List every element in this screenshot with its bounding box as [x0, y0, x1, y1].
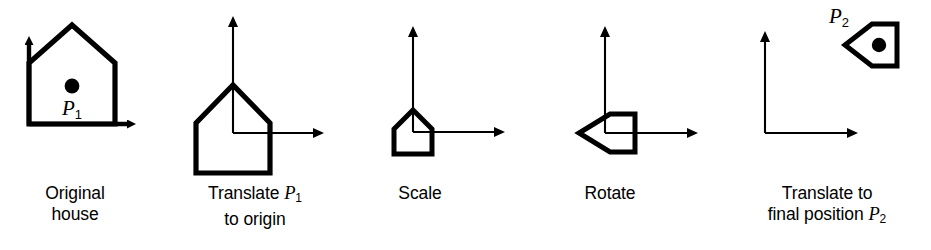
- caption-translate-origin-text: Translate: [208, 183, 284, 203]
- caption-translate-final-var: P: [868, 204, 879, 224]
- caption-original-house-line2: house: [0, 204, 150, 225]
- point-label-p2: P2: [829, 4, 849, 30]
- caption-scale: Scale: [350, 183, 490, 204]
- panel-rotate: [579, 36, 688, 152]
- caption-translate-origin-line2: to origin: [170, 209, 340, 230]
- caption-translate-final: Translate to final position P2: [723, 183, 931, 230]
- caption-translate-origin: Translate P1 to origin: [170, 183, 340, 230]
- caption-translate-origin-var: P: [284, 183, 295, 203]
- point-label-p1: P1: [62, 96, 82, 122]
- axes-scale: [413, 36, 495, 132]
- house-shape-final: [845, 24, 897, 66]
- caption-rotate-line1: Rotate: [540, 183, 680, 204]
- point-label-p2-subscript: 2: [842, 15, 849, 30]
- panel-translate-final: [765, 24, 897, 133]
- figure-canvas: P1 P2 Original house Translate P1 to ori…: [0, 0, 931, 250]
- caption-original-house-line1: Original: [0, 183, 150, 204]
- caption-translate-final-sub: 2: [880, 212, 887, 226]
- caption-translate-final-text: final position: [768, 204, 869, 224]
- panel-scale: [394, 36, 495, 154]
- caption-scale-line1: Scale: [350, 183, 490, 204]
- panel-translate-origin: [196, 26, 314, 173]
- axes-translate-origin: [233, 26, 314, 133]
- caption-translate-origin-sub: 1: [295, 191, 302, 205]
- axes-rotate: [605, 36, 688, 133]
- caption-original-house: Original house: [0, 183, 150, 225]
- point-marker-p2: [872, 38, 886, 52]
- caption-rotate: Rotate: [540, 183, 680, 204]
- caption-translate-final-line2: final position P2: [723, 204, 931, 230]
- axes-translate-final: [765, 41, 848, 133]
- caption-translate-final-line1: Translate to: [723, 183, 931, 204]
- point-label-p1-subscript: 1: [75, 107, 82, 122]
- caption-translate-origin-line1: Translate P1: [170, 183, 340, 209]
- point-label-p2-letter: P: [829, 4, 842, 28]
- point-label-p1-letter: P: [62, 96, 75, 120]
- point-marker-p1: [65, 79, 80, 94]
